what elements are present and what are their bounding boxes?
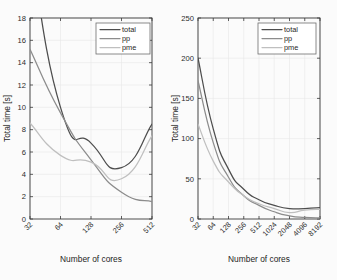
y-tick-label: 18 — [18, 14, 26, 23]
y-tick-label: 6 — [22, 148, 26, 157]
chart-panel-left: 0246810121416183264128256512Number of co… — [0, 0, 170, 280]
y-tick-label: 150 — [181, 94, 194, 103]
x-tick-label: 512 — [141, 220, 156, 235]
legend-label-pp: pp — [122, 34, 130, 43]
x-tick-label: 8192 — [306, 220, 324, 238]
y-tick-label: 8 — [22, 125, 26, 134]
x-tick-label: 1024 — [261, 220, 279, 238]
y-tick-label: 12 — [18, 81, 26, 90]
legend-label-total: total — [284, 25, 298, 34]
legend-label-pme: pme — [122, 43, 136, 52]
chart-panel-right: 0501001502002503264128256512102420484096… — [170, 0, 337, 280]
y-axis-title: Total time [s] — [170, 95, 180, 142]
y-tick-label: 10 — [18, 103, 26, 112]
x-tick-label: 128 — [218, 220, 233, 235]
y-tick-label: 200 — [181, 54, 194, 63]
x-tick-label: 64 — [53, 220, 65, 232]
y-axis-title: Total time [s] — [2, 95, 12, 142]
y-tick-label: 16 — [18, 36, 26, 45]
y-tick-label: 14 — [18, 58, 26, 67]
x-tick-label: 64 — [205, 220, 217, 232]
figure-root: 0246810121416183264128256512Number of co… — [0, 0, 337, 280]
right-chart-svg: 0501001502002503264128256512102420484096… — [170, 0, 337, 280]
y-tick-label: 100 — [181, 134, 194, 143]
x-tick-label: 4096 — [291, 220, 309, 238]
x-tick-label: 256 — [233, 220, 248, 235]
legend-label-total: total — [122, 25, 136, 34]
y-tick-label: 250 — [181, 14, 194, 23]
y-tick-label: 50 — [186, 175, 194, 184]
legend-label-pp: pp — [284, 34, 292, 43]
left-chart-svg: 0246810121416183264128256512Number of co… — [0, 0, 170, 280]
y-tick-label: 4 — [22, 170, 26, 179]
y-tick-label: 2 — [22, 192, 26, 201]
x-tick-label: 2048 — [276, 220, 294, 238]
legend-label-pme: pme — [284, 43, 298, 52]
x-tick-label: 128 — [80, 220, 95, 235]
x-axis-title: Number of cores — [60, 254, 122, 264]
x-tick-label: 256 — [111, 220, 126, 235]
x-axis-title: Number of cores — [228, 254, 290, 264]
